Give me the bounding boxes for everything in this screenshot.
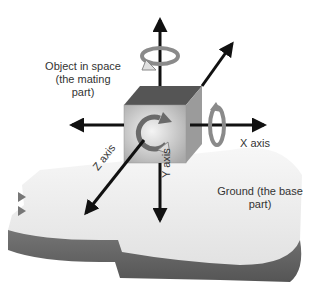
object-label: Object in space (the mating part) — [28, 60, 138, 99]
object-label-line3: part) — [28, 86, 138, 99]
ground-label-line1: Ground (the base — [205, 185, 315, 198]
ground-label-line2: part) — [205, 198, 315, 211]
dof-diagram — [0, 0, 326, 287]
object-label-line2: (the mating — [28, 73, 138, 86]
object-label-line1: Object in space — [28, 60, 138, 73]
x-axis-label: X axis — [240, 137, 270, 150]
depth-arrow — [202, 44, 232, 86]
ground-label: Ground (the base part) — [205, 185, 315, 211]
y-axis-label: Y axis — [160, 148, 173, 178]
ground-base-part — [8, 148, 302, 282]
